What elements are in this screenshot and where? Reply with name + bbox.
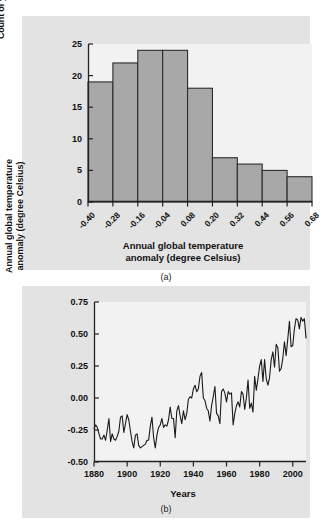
line-chart-y-tick: -0.25 bbox=[67, 425, 88, 435]
histogram-x-tick: -0.40 bbox=[67, 210, 97, 240]
line-chart-x-tick: 2000 bbox=[283, 469, 303, 479]
line-chart-y-tick: 0.25 bbox=[70, 361, 88, 371]
histogram-x-tick: -0.28 bbox=[92, 210, 122, 240]
histogram-bar bbox=[113, 63, 138, 202]
line-plot-area bbox=[94, 302, 306, 462]
histogram-y-tick: 20 bbox=[72, 71, 82, 81]
figure-container: Count of years, 1880-2008 0510152025 -0.… bbox=[0, 0, 332, 529]
histogram-plot-area bbox=[88, 44, 312, 202]
histogram-bar bbox=[287, 177, 312, 202]
histogram-y-tick: 10 bbox=[72, 134, 82, 144]
histogram-x-tick: 0.56 bbox=[266, 210, 296, 240]
line-chart-x-tick: 1900 bbox=[117, 469, 137, 479]
histogram-bar bbox=[88, 82, 113, 202]
line-chart-x-axis-title: Years bbox=[56, 488, 310, 500]
histogram-svg bbox=[88, 44, 312, 202]
temperature-anomaly-line bbox=[94, 317, 306, 448]
histogram-bar bbox=[163, 50, 188, 202]
histogram-bar bbox=[237, 164, 262, 202]
histogram-bar bbox=[212, 158, 237, 202]
histogram-x-tick: 0.44 bbox=[242, 210, 272, 240]
histogram-x-tick: 0.32 bbox=[217, 210, 247, 240]
histogram-x-tick: 0.20 bbox=[192, 210, 222, 240]
panel-b-line-chart: Annual global temperature anomaly (degre… bbox=[22, 286, 310, 518]
line-chart-x-tick: 1920 bbox=[150, 469, 170, 479]
histogram-x-tick: 0.08 bbox=[167, 210, 197, 240]
line-chart-y-axis-title: Annual global temperature anomaly (degre… bbox=[4, 136, 26, 296]
line-chart-x-tick: 1880 bbox=[84, 469, 104, 479]
line-chart-x-tick: 1980 bbox=[250, 469, 270, 479]
line-chart-y-tick: 0.00 bbox=[70, 393, 88, 403]
histogram-bar bbox=[262, 170, 287, 202]
panel-a-histogram: Count of years, 1880-2008 0510152025 -0.… bbox=[22, 16, 310, 270]
histogram-y-tick: 0 bbox=[77, 197, 82, 207]
line-chart-y-tick: -0.50 bbox=[67, 457, 88, 467]
line-chart-y-tick: 0.50 bbox=[70, 329, 88, 339]
panel-a-caption: (a) bbox=[0, 272, 332, 282]
histogram-y-tick: 5 bbox=[77, 165, 82, 175]
line-chart-y-tick: 0.75 bbox=[70, 297, 88, 307]
line-chart-svg bbox=[94, 302, 306, 462]
histogram-y-tick: 25 bbox=[72, 39, 82, 49]
histogram-x-tick: -0.04 bbox=[142, 210, 172, 240]
histogram-y-tick: 15 bbox=[72, 102, 82, 112]
panel-b-caption: (b) bbox=[0, 504, 332, 514]
histogram-y-axis-title: Count of years, 1880-2008 bbox=[0, 0, 6, 66]
line-chart-x-tick: 1960 bbox=[216, 469, 236, 479]
histogram-bar bbox=[188, 88, 213, 202]
line-chart-x-tick: 1940 bbox=[183, 469, 203, 479]
histogram-x-axis-title: Annual global temperature anomaly (degre… bbox=[56, 240, 310, 263]
histogram-bar bbox=[138, 50, 163, 202]
histogram-x-tick: 0.68 bbox=[291, 210, 321, 240]
histogram-x-tick: -0.16 bbox=[117, 210, 147, 240]
